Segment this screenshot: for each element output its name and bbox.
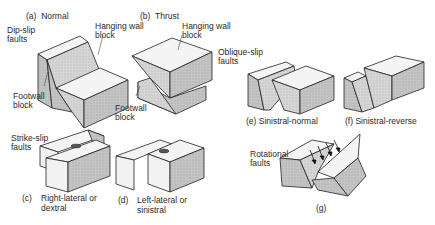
footwall-label-b: Footwall block [115, 104, 147, 122]
panel-d-letter: (d) [118, 196, 128, 206]
panel-b-title: (b) Thrust [140, 12, 179, 21]
panel-e-caption: (e) Sinistral-normal [246, 117, 318, 127]
rotational-label: Rotational faults [250, 150, 288, 168]
strike-slip-label: Strike-slip faults [11, 134, 48, 152]
footwall-label-a: Footwall block [13, 92, 45, 110]
dip-slip-label: Dip-slip faults [7, 26, 35, 44]
panel-g-caption: (g) [316, 204, 326, 214]
panel-f-caption: (f) Sinistral-reverse [345, 117, 417, 127]
right-lateral-block [40, 130, 110, 192]
panel-c-caption: Right-lateral or dextral [41, 194, 97, 213]
sinistral-reverse-block [344, 56, 424, 112]
sinistral-normal-block [248, 62, 334, 114]
hanging-wall-label-b: Hanging wall block [182, 22, 231, 40]
slip-arrow-icon [71, 144, 81, 148]
c-front-front [46, 158, 68, 192]
panel-c-letter: (c) [22, 194, 32, 204]
left-lateral-block [116, 140, 204, 192]
hanging-wall-label-a: Hanging wall block [95, 22, 144, 40]
slip-arrow-icon [159, 149, 169, 153]
oblique-slip-label: Oblique-slip faults [218, 48, 263, 66]
panel-a-title: (a) Normal [26, 12, 69, 21]
panel-d-caption: Left-lateral or sinistral [137, 196, 187, 215]
d-left-front [116, 156, 134, 190]
rotational-fault-block [280, 134, 366, 196]
